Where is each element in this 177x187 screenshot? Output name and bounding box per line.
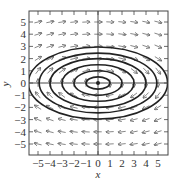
field-arrow	[118, 131, 125, 132]
field-arrow	[154, 143, 161, 145]
field-arrow	[130, 143, 137, 144]
y-tick-label: 1	[21, 65, 27, 77]
x-tick-label: 2	[119, 157, 125, 169]
y-tick-label: 3	[21, 40, 27, 52]
field-arrow	[118, 46, 125, 47]
field-arrow	[46, 131, 53, 133]
field-arrow	[143, 93, 148, 98]
field-arrow	[70, 34, 77, 35]
field-arrow	[58, 45, 65, 47]
field-arrow	[59, 69, 65, 74]
field-arrow	[142, 45, 149, 47]
x-tick-label: −5	[32, 157, 44, 169]
x-tick-label: −3	[56, 157, 68, 169]
field-arrow	[155, 45, 162, 48]
field-arrow	[142, 131, 149, 133]
field-arrow	[143, 68, 148, 73]
x-tick-label: 3	[131, 157, 137, 169]
field-arrow	[155, 118, 162, 121]
field-arrow	[46, 143, 53, 144]
field-arrow	[131, 69, 137, 74]
field-arrow	[70, 119, 77, 120]
field-arrow	[47, 93, 52, 98]
field-arrow	[35, 105, 41, 109]
vector-field-plot: −5−4−3−2−1012345−5−4−3−2−1012345 x y	[0, 0, 177, 187]
field-arrow	[46, 45, 53, 47]
field-arrow	[118, 58, 125, 60]
field-arrow	[154, 33, 161, 35]
y-axis-label: y	[0, 81, 11, 87]
field-arrow	[142, 21, 149, 22]
x-tick-label: 4	[143, 157, 149, 169]
field-arrow	[58, 119, 65, 121]
field-arrow	[34, 143, 41, 145]
field-arrow	[130, 131, 137, 132]
field-arrow	[118, 106, 125, 108]
field-arrow	[46, 33, 53, 35]
field-arrow	[142, 33, 149, 35]
field-arrow	[118, 22, 125, 23]
field-arrow	[130, 119, 137, 121]
field-arrow	[35, 45, 42, 48]
x-tick-label: −4	[44, 157, 56, 169]
x-axis-label: x	[95, 168, 101, 180]
field-arrow	[70, 144, 77, 145]
field-arrow	[154, 21, 161, 23]
equilibrium-point	[96, 81, 100, 85]
field-arrow	[155, 105, 161, 109]
field-arrow	[58, 21, 65, 22]
field-arrow	[58, 143, 65, 144]
tick-labels: −5−4−3−2−1012345−5−4−3−2−1012345	[14, 16, 161, 169]
field-arrow	[155, 57, 161, 61]
field-arrow	[70, 106, 77, 108]
field-arrow	[70, 46, 77, 47]
field-arrow	[36, 68, 41, 74]
field-arrow	[142, 143, 149, 144]
field-arrow	[35, 57, 41, 61]
x-tick-label: −2	[68, 157, 80, 169]
field-arrow	[142, 118, 149, 120]
y-tick-label: −1	[14, 89, 26, 101]
y-tick-label: −4	[14, 126, 26, 138]
field-arrow	[118, 34, 125, 35]
field-arrow	[131, 93, 137, 98]
x-tick-label: 5	[155, 157, 161, 169]
y-tick-label: −5	[14, 138, 26, 150]
field-arrow	[118, 119, 125, 120]
field-arrow	[34, 131, 41, 133]
y-tick-label: 4	[21, 28, 27, 40]
field-arrow	[47, 68, 52, 73]
y-tick-label: 0	[21, 77, 27, 89]
field-arrow	[34, 21, 41, 23]
field-arrow	[130, 34, 137, 35]
field-arrow	[130, 45, 137, 47]
y-tick-label: 2	[21, 53, 27, 65]
field-arrow	[70, 58, 77, 60]
field-arrow	[118, 144, 125, 145]
y-tick-label: 5	[21, 16, 27, 28]
field-arrow	[156, 68, 161, 74]
x-tick-label: 1	[107, 157, 113, 169]
y-tick-label: −3	[14, 114, 26, 126]
field-arrow	[154, 131, 161, 133]
y-tick-label: −2	[14, 101, 26, 113]
field-arrow	[70, 131, 77, 132]
field-arrow	[130, 21, 137, 22]
field-arrow	[46, 21, 53, 22]
field-arrow	[46, 118, 53, 120]
field-arrow	[156, 92, 161, 98]
field-arrow	[36, 92, 41, 98]
field-arrow	[58, 34, 65, 35]
field-arrow	[58, 131, 65, 132]
field-arrow	[59, 93, 65, 98]
field-arrow	[70, 22, 77, 23]
x-tick-label: −1	[80, 157, 92, 169]
field-arrow	[34, 33, 41, 35]
field-arrow	[35, 118, 42, 121]
